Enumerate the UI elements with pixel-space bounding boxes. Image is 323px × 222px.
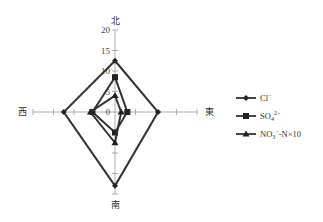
square-marker	[124, 109, 130, 115]
series-1	[89, 74, 130, 135]
series-polygon	[64, 61, 158, 186]
series-2	[87, 92, 125, 145]
axis-label-south: 南	[111, 199, 120, 210]
series-polygon	[90, 96, 121, 143]
triangle-marker	[112, 92, 119, 98]
series-0	[61, 58, 161, 189]
square-marker	[112, 74, 118, 80]
legend-label: Cl−	[260, 92, 272, 103]
diamond-marker	[243, 95, 249, 101]
triangle-marker	[118, 109, 125, 115]
legend: Cl−SO42−NO3−-N×10	[236, 92, 301, 140]
legend-item: Cl−	[236, 92, 272, 103]
legend-item: SO42−	[236, 110, 281, 122]
tick-label: 15	[101, 46, 111, 56]
axis-label-east: 東	[205, 106, 214, 117]
legend-item: NO3−-N×10	[236, 128, 301, 140]
series-polygon	[92, 77, 127, 132]
square-marker	[243, 113, 249, 119]
legend-label: NO3−-N×10	[260, 128, 301, 140]
tick-label: 0	[106, 107, 111, 117]
axis-label-north: 北	[111, 16, 120, 26]
axis-label-west: 西	[18, 107, 27, 117]
tick-label: 20	[101, 25, 111, 35]
radar-axes	[33, 30, 197, 194]
legend-label: SO42−	[260, 110, 281, 122]
radar-chart: 05101520北東南西Cl−SO42−NO3−-N×10	[0, 0, 323, 222]
